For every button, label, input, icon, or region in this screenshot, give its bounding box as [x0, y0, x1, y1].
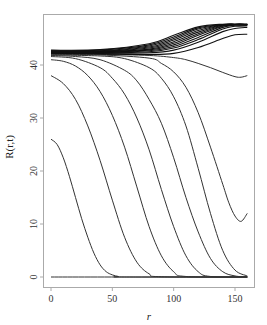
x-axis: 050100150 — [49, 288, 243, 305]
y-tick-label: 0 — [28, 275, 39, 280]
y-tick-label: 10 — [28, 219, 39, 229]
x-tick-label: 150 — [228, 293, 243, 304]
series-line-t7 — [51, 54, 247, 221]
x-tick-label: 100 — [166, 293, 181, 304]
y-axis: 010203040 — [28, 60, 44, 280]
x-tick-label: 0 — [49, 293, 54, 304]
x-axis-title: r — [147, 310, 152, 322]
series-line-t5 — [51, 55, 247, 277]
series-line-t2 — [51, 76, 247, 277]
line-chart: 050100150 010203040 r R(r,t) — [0, 0, 267, 325]
x-tick-label: 50 — [107, 293, 117, 304]
series-lines — [51, 24, 247, 277]
series-line-t6 — [51, 55, 247, 276]
y-tick-label: 20 — [28, 166, 39, 176]
y-axis-title: R(r,t) — [3, 135, 16, 159]
series-line-t1 — [51, 139, 247, 277]
y-tick-label: 30 — [28, 113, 39, 123]
series-line-t4 — [51, 57, 247, 278]
y-tick-label: 40 — [28, 60, 39, 70]
